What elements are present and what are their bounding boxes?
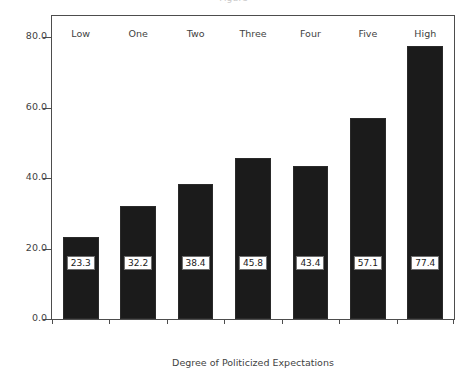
bar <box>235 158 271 319</box>
bar-value-label: 43.4 <box>296 256 324 270</box>
x-tick-mark <box>397 319 398 324</box>
bar-value-label: 57.1 <box>354 256 382 270</box>
bar <box>293 166 329 319</box>
x-tick-label: Four <box>300 28 321 39</box>
y-tick-label: 80.0 <box>26 30 47 41</box>
x-tick-label: Two <box>187 28 205 39</box>
bar <box>407 46 443 319</box>
x-tick-mark <box>339 319 340 324</box>
x-tick-mark <box>224 319 225 324</box>
x-tick-mark <box>52 319 53 324</box>
chart-title: Figure <box>0 0 467 4</box>
x-tick-mark <box>282 319 283 324</box>
x-tick-label: One <box>128 28 147 39</box>
bar-value-label: 45.8 <box>239 256 267 270</box>
x-tick-label: High <box>414 28 436 39</box>
x-tick-label: Low <box>71 28 90 39</box>
x-tick-mark <box>453 319 454 324</box>
x-tick-mark <box>109 319 110 324</box>
x-axis-label: Degree of Politicized Expectations <box>51 357 455 368</box>
bar <box>350 118 386 319</box>
chart-figure: Figure More Trust in Politicians in Suit… <box>0 0 467 377</box>
x-tick-label: Five <box>358 28 377 39</box>
x-tick-label: Three <box>239 28 266 39</box>
y-tick-label: 60.0 <box>26 101 47 112</box>
x-tick-mark <box>167 319 168 324</box>
y-tick-label: 40.0 <box>26 171 47 182</box>
bar <box>63 237 99 319</box>
bar-value-label: 23.3 <box>67 256 95 270</box>
y-tick-label: 20.0 <box>26 242 47 253</box>
bar <box>178 184 214 319</box>
bar-value-label: 77.4 <box>411 256 439 270</box>
y-tick-label: 0.0 <box>32 312 47 323</box>
plot-area: 0.020.040.060.080.0 LowOneTwoThreeFourFi… <box>51 15 455 320</box>
bar-value-label: 38.4 <box>182 256 210 270</box>
bar-value-label: 32.2 <box>124 256 152 270</box>
